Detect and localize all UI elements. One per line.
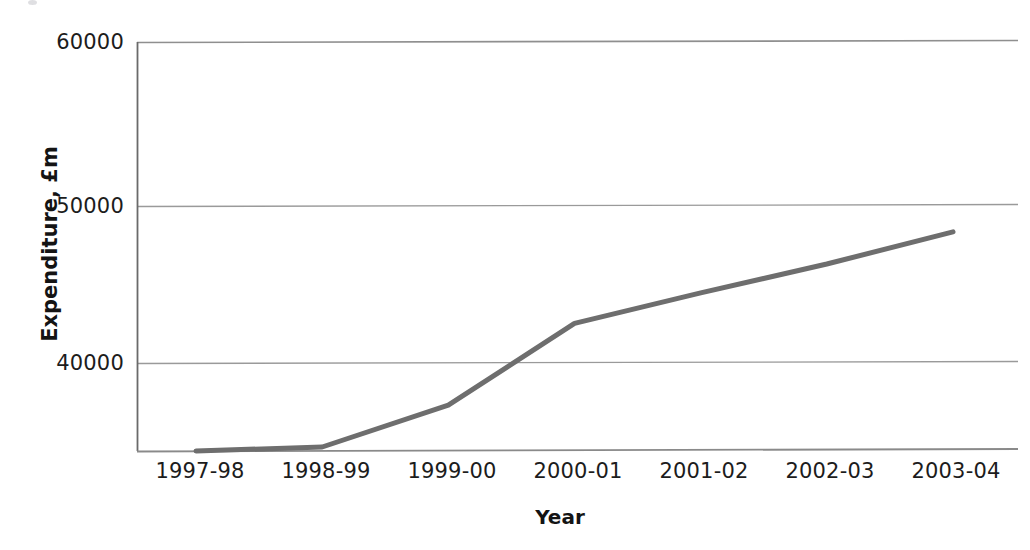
x-axis-title: Year [460, 505, 660, 529]
x-tick-label-2002-03: 2002-03 [760, 459, 900, 483]
gridline-50000 [137, 205, 1018, 207]
x-tick-label-2000-01: 2000-01 [508, 459, 648, 483]
line-chart: 60000 50000 40000 Expenditure, £m 1997-9… [0, 0, 1030, 550]
x-tick-label-1998-99: 1998-99 [256, 459, 396, 483]
gridline-60000 [137, 41, 1018, 43]
y-tick-label-50000: 50000 [0, 194, 124, 218]
y-tick-label-60000: 60000 [0, 30, 124, 54]
gridline-40000 [137, 362, 1018, 364]
x-tick-label-1999-00: 1999-00 [382, 459, 522, 483]
x-tick-label-1997-98: 1997-98 [130, 459, 270, 483]
y-tick-label-40000: 40000 [0, 351, 124, 375]
x-tick-label-2001-02: 2001-02 [634, 459, 774, 483]
x-tick-label-2003-04: 2003-04 [886, 459, 1026, 483]
series-expenditure-line [196, 232, 953, 451]
y-axis-title: Expenditure, £m [38, 134, 62, 354]
